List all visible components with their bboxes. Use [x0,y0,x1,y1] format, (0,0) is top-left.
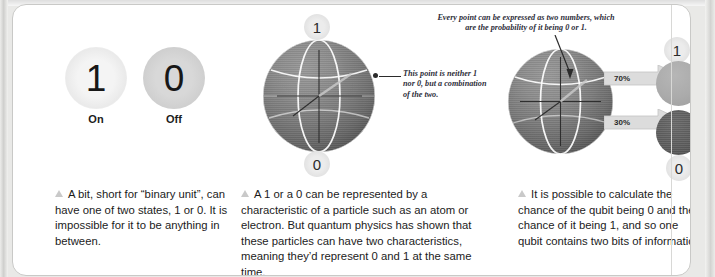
paragraph-probability-text: It is possible to calculate the chance o… [518,188,691,247]
outcome-zero-label: 0 [675,160,683,177]
frame-edge-left [0,0,8,277]
paragraph-qubit-text: A 1 or a 0 can be represented by a chara… [241,188,471,276]
card-right-rule [671,5,672,276]
triangle-bullet-icon [518,190,527,198]
bit-on-digit: 1 [86,60,107,97]
sphere-body [263,40,375,152]
bit-off-digit: 0 [164,60,185,97]
triangle-bullet-icon [241,190,250,198]
callout-probability: Every point can be expressed as two numb… [437,13,615,34]
bit-states-group: 1 On 0 Off [65,47,215,109]
paragraph-bit: A bit, short for “binary unit”, can have… [55,187,241,249]
bit-state-off: 0 Off [143,47,205,109]
callout-qubit-point: This point is neither 1 nor 0, but a com… [403,69,487,100]
bit-off-label: Off [143,113,205,125]
bit-on-label: On [65,113,127,125]
qubit-pole-bottom-label: 0 [313,156,321,173]
outcome-zero-badge: 0 [666,155,691,181]
paragraph-qubit: A 1 or a 0 can be represented by a chara… [241,187,491,276]
paragraph-probability: It is possible to calculate the chance o… [518,187,691,249]
outcome-one-label: 1 [673,42,681,59]
callout-leader-line-qubit [379,76,401,77]
triangle-bullet-icon [55,190,64,198]
outcome-zero-scanlines [656,110,691,155]
paragraph-bit-text: A bit, short for “binary unit”, can have… [55,188,227,247]
qubit-pole-top-label: 1 [313,19,321,36]
qubit-pole-top-badge: 1 [304,14,330,40]
outcome-one-badge: 1 [664,37,690,63]
qubit-pole-bottom-badge: 0 [304,151,330,177]
outcome-one-disc-icon [656,61,691,106]
content-card: 1 On 0 Off A bit, short for “binary unit… [12,4,691,276]
label-70-percent: 70% [614,74,630,83]
frame-edge-right [705,0,715,277]
infographic-root: 1 On 0 Off A bit, short for “binary unit… [0,0,715,277]
panel-bit: 1 On 0 Off A bit, short for “binary unit… [27,5,242,276]
bit-off-disc-icon: 0 [143,47,205,109]
sphere-gridlines-icon [263,40,375,152]
bit-on-disc-icon: 1 [65,47,127,109]
callout-point-marker-qubit [373,73,378,78]
callout-leader-arrow-probability [551,35,579,83]
outcome-zero-disc-icon [656,110,691,155]
label-30-percent: 30% [614,118,630,127]
bit-state-on: 1 On [65,47,127,109]
